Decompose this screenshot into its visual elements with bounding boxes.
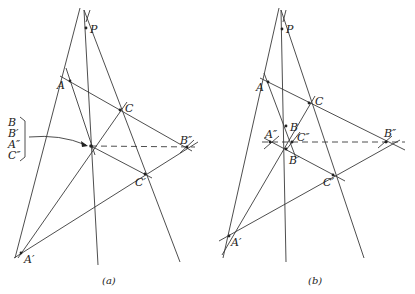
stack-label-C-double-prime: C″	[8, 149, 21, 162]
label-C-prime: C′	[323, 176, 334, 189]
label-P: P	[285, 23, 294, 36]
label-A-prime: A′	[230, 236, 242, 249]
label-B-double-prime: B″	[383, 127, 397, 140]
desargues-figure: P A C B″ C′ A′ B B′ A″ C″ (a)	[0, 0, 415, 294]
label-B-double-prime: B″	[179, 134, 193, 147]
label-B-prime: B′	[288, 154, 300, 167]
label-C: C	[315, 95, 324, 108]
panel-b: P A C B A″ C″ B″ B′ C′ A′ (b)	[219, 8, 405, 286]
panel-a: P A C B″ C′ A′ B B′ A″ C″ (a)	[7, 8, 198, 286]
caption-b: (b)	[308, 275, 322, 286]
label-P: P	[89, 23, 98, 36]
label-C-double-prime: C″	[297, 131, 310, 144]
label-A: A	[56, 79, 65, 92]
label-C: C	[125, 102, 134, 115]
label-A-prime: A′	[23, 253, 35, 266]
caption-a: (a)	[102, 275, 116, 286]
label-A-double-prime: A″	[264, 128, 278, 141]
label-C-prime: C′	[135, 176, 146, 189]
label-A: A	[255, 81, 264, 94]
